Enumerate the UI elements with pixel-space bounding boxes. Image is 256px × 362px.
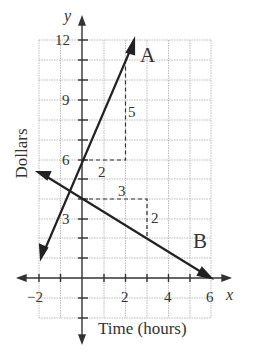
x-axis-name: x	[226, 287, 233, 303]
y-axis-name: y	[64, 8, 71, 24]
line-b-label: B	[193, 231, 207, 252]
y-axis-title: Dollars	[13, 119, 30, 189]
x-tick-4: 4	[164, 290, 172, 305]
y-tick-9: 9	[62, 93, 70, 108]
line-a	[40, 40, 134, 258]
y-tick-3: 3	[62, 212, 70, 227]
line-a-rise-label: 5	[128, 105, 136, 120]
x-tick-2: 2	[121, 290, 129, 305]
x-tick-6: 6	[206, 290, 214, 305]
line-a-run-label: 2	[98, 165, 106, 180]
line-b-drop-label: 2	[151, 211, 159, 226]
x-tick-neg2: −2	[27, 290, 43, 305]
coordinate-graph	[0, 0, 256, 362]
x-axis-title: Time (hours)	[98, 320, 187, 337]
line-b-run-label: 3	[118, 184, 126, 199]
y-tick-12: 12	[55, 33, 70, 48]
y-tick-6: 6	[62, 153, 70, 168]
line-a-label: A	[140, 45, 155, 66]
